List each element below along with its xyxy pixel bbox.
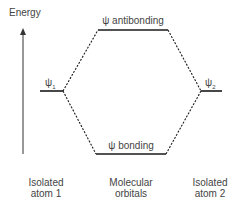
connector-lines	[63, 30, 201, 154]
column-label-atom2: Isolatedatom 2	[186, 177, 234, 199]
antibonding-label: ψ antibonding	[98, 15, 168, 26]
psi1-label: ψ1	[45, 77, 55, 93]
column-label-molecular: Molecularorbitals	[103, 177, 159, 199]
mo-diagram	[0, 0, 237, 206]
bonding-label: ψ bonding	[96, 140, 166, 151]
psi2-label: ψ2	[205, 77, 215, 93]
energy-axis-arrow	[20, 28, 26, 154]
column-label-atom1: Isolatedatom 1	[22, 177, 70, 199]
energy-axis-label: Energy	[9, 7, 41, 18]
